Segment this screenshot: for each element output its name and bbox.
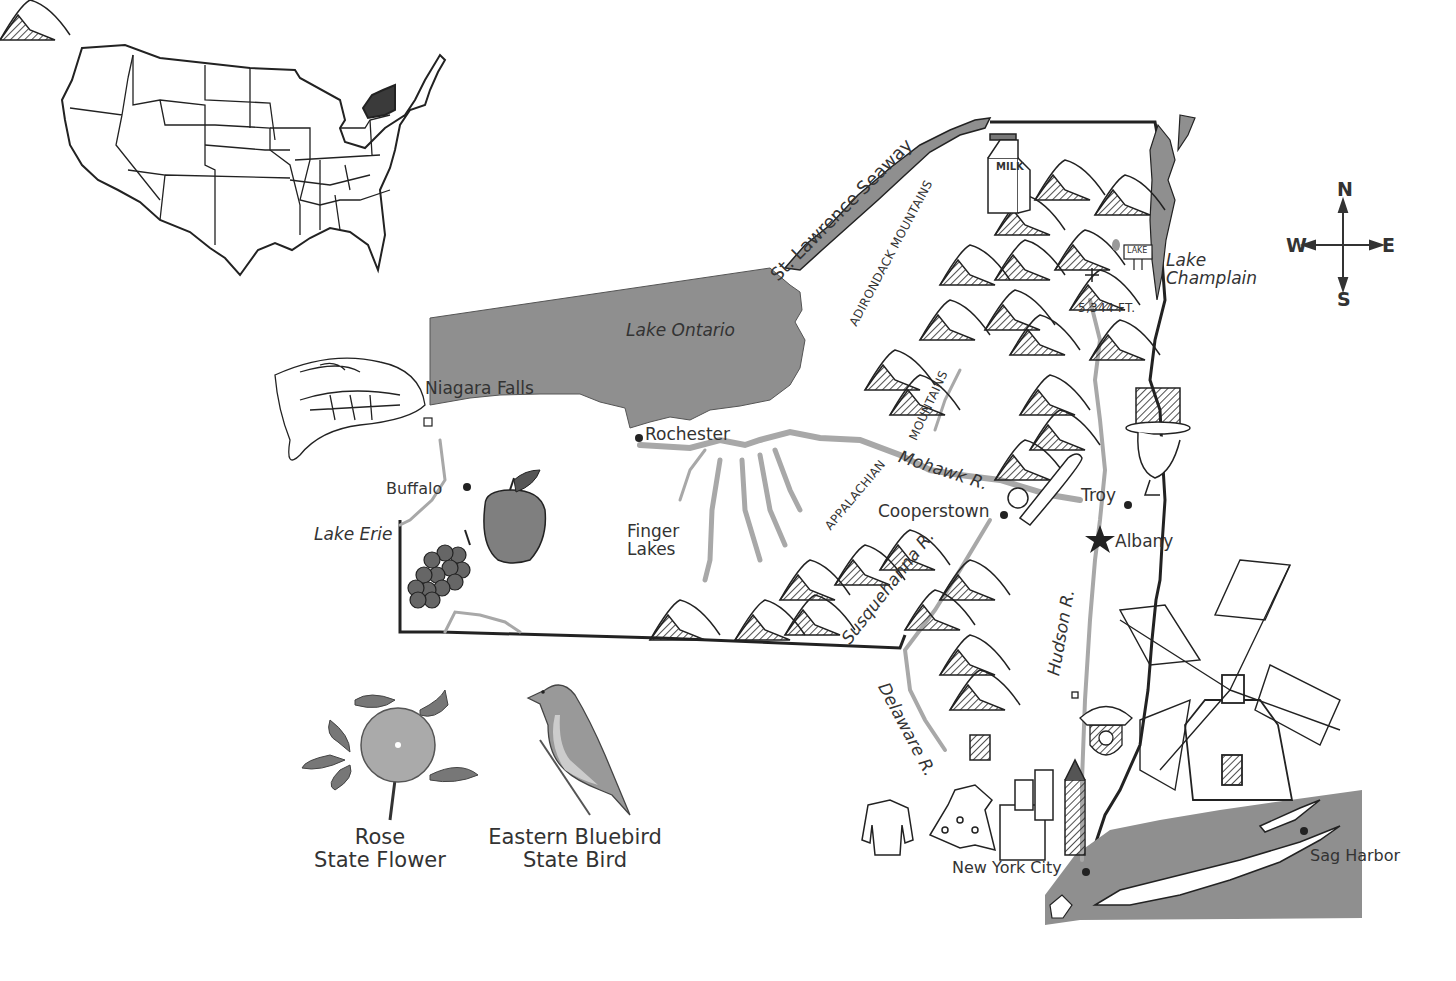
rochester-label: Rochester <box>645 426 730 443</box>
cooperstown-marker <box>1000 511 1008 519</box>
rochester-marker <box>635 434 643 442</box>
albany-capital-star-icon <box>1085 525 1115 553</box>
windmill-icon <box>1120 560 1340 800</box>
sag-harbor-marker <box>1300 827 1308 835</box>
new-york-highlight <box>363 85 395 118</box>
elevation-label: 5,344 FT. <box>1078 302 1135 314</box>
bird-name: Eastern Bluebird <box>480 826 670 849</box>
troy-label: Troy <box>1081 487 1116 504</box>
cooperstown-label: Cooperstown <box>878 503 990 520</box>
buffalo-label: Buffalo <box>386 481 442 497</box>
compass-south: S <box>1337 290 1351 309</box>
lake-sign-label: LAKE <box>1127 247 1147 255</box>
finger-lakes-label-2: Lakes <box>627 541 675 558</box>
finger-lakes-label-1: Finger <box>627 523 679 540</box>
nyc-marker <box>1082 868 1090 876</box>
new-york-map <box>0 0 1456 981</box>
milk-label: MILK <box>996 162 1024 172</box>
grapes-icon <box>408 530 470 608</box>
compass-rose <box>1303 200 1382 290</box>
niagara-falls-label: Niagara Falls <box>425 380 534 397</box>
state-bird-caption: Eastern Bluebird State Bird <box>480 826 670 872</box>
lake-erie-label: Lake Erie <box>314 526 393 543</box>
albany-label: Albany <box>1115 533 1173 550</box>
lake-champlain-label-2: Champlain <box>1166 270 1257 287</box>
niagara-falls-marker <box>424 418 432 426</box>
flower-name: Rose <box>300 826 460 849</box>
us-inset-map <box>62 45 445 275</box>
uncle-sam-icon <box>1126 388 1190 495</box>
flower-title: State Flower <box>300 849 460 872</box>
sweater-icon <box>862 800 913 855</box>
west-point-crest-icon <box>1072 692 1132 755</box>
lake-ontario-label: Lake Ontario <box>626 322 735 339</box>
dress-icon <box>930 785 995 850</box>
new-york-city-label: New York City <box>952 860 1062 876</box>
troy-marker <box>1124 501 1132 509</box>
state-flower-caption: Rose State Flower <box>300 826 460 872</box>
niagara-falls-sketch <box>275 358 425 460</box>
compass-west: W <box>1286 236 1307 255</box>
eastern-bluebird-icon <box>528 685 630 815</box>
compass-north: N <box>1337 180 1353 199</box>
sag-harbor-label: Sag Harbor <box>1310 848 1400 864</box>
apple-icon <box>484 470 546 563</box>
milk-carton-icon <box>988 134 1030 213</box>
compass-east: E <box>1382 236 1395 255</box>
bird-title: State Bird <box>480 849 670 872</box>
lake-champlain-label-1: Lake <box>1166 252 1206 269</box>
rose-flower-icon <box>302 690 478 820</box>
lake-ontario <box>430 268 805 428</box>
buffalo-marker <box>463 483 471 491</box>
